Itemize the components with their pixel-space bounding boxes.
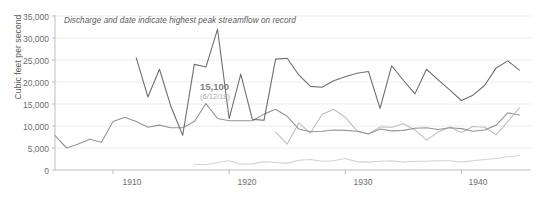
series-base-flow [194,155,519,164]
y-axis-tick-label: 20,000 [23,79,49,88]
y-axis-tick-label: 30,000 [23,35,49,44]
y-axis-tick-label: 15,000 [23,101,49,110]
y-axis-tick-label: 25,000 [23,57,49,66]
peak-annotation: 15,100 (6/12/18) [200,82,230,101]
peak-annotation-value: 15,100 [200,82,230,92]
streamflow-chart: Cubic feet per second 35,000 30,000 25,0… [0,0,537,198]
y-axis-tick-label: 35,000 [23,13,49,22]
plot-area [0,0,537,198]
y-axis-tick-label: 0 [44,167,49,176]
y-axis-tick-label: 5,000 [28,145,49,154]
x-axis-tick-label: 1930 [343,178,383,187]
y-axis-tick-label: 10,000 [23,123,49,132]
y-axis-tick-column: Cubic feet per second 35,000 30,000 25,0… [0,0,49,198]
x-axis-tick-label: 1940 [458,178,498,187]
x-axis-tick-label: 1910 [112,178,152,187]
peak-annotation-date: (6/12/18) [200,93,230,101]
x-axis-tick-label: 1920 [227,178,267,187]
y-axis-title: Cubic feet per second [13,0,23,127]
chart-note: Discharge and date indicate highest peak… [64,16,296,25]
